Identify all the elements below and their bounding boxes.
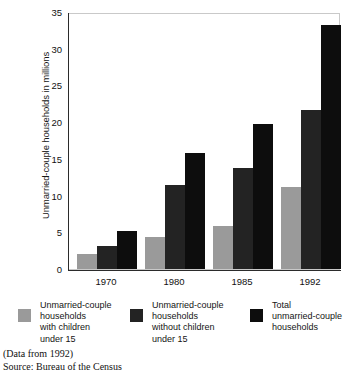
bar-1980-series1 — [165, 185, 185, 269]
legend-item-series0: Unmarried-couplehouseholdswith childrenu… — [18, 300, 112, 345]
bar-1980-series2 — [185, 153, 205, 269]
data-note: (Data from 1992) — [3, 348, 122, 361]
legend-swatch-icon — [130, 309, 143, 322]
bar-1980-series0 — [145, 237, 165, 269]
legend-label-line: under 15 — [152, 334, 224, 345]
legend-swatch-icon — [18, 309, 31, 322]
legend-label-line: Total — [272, 300, 342, 311]
chart-legend: Unmarried-couplehouseholdswith childrenu… — [0, 300, 349, 348]
y-tick-label: 35 — [22, 7, 68, 18]
bar-1985-series0 — [213, 226, 233, 269]
bar-1970-series2 — [117, 231, 137, 269]
y-tick-label: 15 — [22, 154, 68, 165]
bar-1985-series1 — [233, 168, 253, 269]
y-tick-label: 0 — [22, 264, 68, 275]
y-axis-line — [68, 13, 69, 271]
bar-1970-series1 — [97, 246, 117, 269]
bar-1970-series0 — [77, 254, 97, 269]
legend-label: Unmarried-couplehouseholdswithout childr… — [152, 300, 224, 345]
x-tick-label: 1980 — [144, 276, 204, 287]
y-tick-label: 5 — [22, 227, 68, 238]
source-note: Source: Bureau of the Census — [3, 361, 122, 373]
x-tick-label: 1985 — [212, 276, 272, 287]
chart-figure: Unmarried-couple households in millions … — [0, 0, 349, 373]
plot-area — [68, 13, 340, 270]
legend-swatch-icon — [250, 309, 263, 322]
chart-footer: (Data from 1992) Source: Bureau of the C… — [3, 348, 122, 373]
x-axis-line — [68, 270, 341, 271]
legend-label-line: under 15 — [40, 334, 112, 345]
legend-label-line: households — [40, 311, 112, 322]
y-tick-label: 10 — [22, 191, 68, 202]
legend-label-line: households — [272, 322, 342, 333]
legend-label-line: unmarried-couple — [272, 311, 342, 322]
legend-item-series1: Unmarried-couplehouseholdswithout childr… — [130, 300, 224, 345]
y-tick-label: 30 — [22, 44, 68, 55]
legend-label: Totalunmarried-couplehouseholds — [272, 300, 342, 334]
bar-1992-series2 — [321, 25, 341, 269]
legend-item-series2: Totalunmarried-couplehouseholds — [250, 300, 342, 334]
legend-label-line: without children — [152, 322, 224, 333]
legend-label: Unmarried-couplehouseholdswith childrenu… — [40, 300, 112, 345]
y-tick-label: 20 — [22, 117, 68, 128]
bar-1985-series2 — [253, 124, 273, 269]
legend-label-line: with children — [40, 322, 112, 333]
y-tick-label: 25 — [22, 80, 68, 91]
bar-1992-series0 — [281, 187, 301, 269]
legend-label-line: Unmarried-couple — [152, 300, 224, 311]
x-tick-label: 1970 — [76, 276, 136, 287]
legend-label-line: Unmarried-couple — [40, 300, 112, 311]
x-tick-label: 1992 — [280, 276, 340, 287]
bar-1992-series1 — [301, 110, 321, 269]
legend-label-line: households — [152, 311, 224, 322]
